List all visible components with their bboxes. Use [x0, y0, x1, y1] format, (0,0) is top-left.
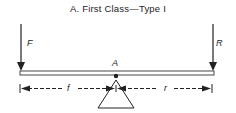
resistance-label: R [216, 38, 223, 48]
fulcrum-triangle [98, 80, 134, 108]
effort-arrow [17, 24, 25, 71]
effort-arm-label: f [67, 83, 70, 93]
resistance-arm-label: r [164, 83, 167, 93]
lever-diagram [0, 0, 236, 113]
fulcrum-point [114, 74, 118, 78]
dimension-lines [20, 84, 212, 93]
effort-label: F [27, 38, 33, 48]
fulcrum-label: A [112, 58, 118, 68]
